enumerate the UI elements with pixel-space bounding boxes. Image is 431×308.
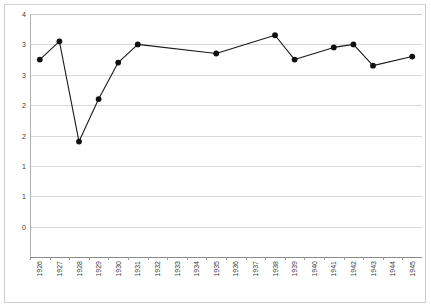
category-axis-tick xyxy=(324,257,325,260)
category-axis-tick xyxy=(265,257,266,260)
category-axis-tick-label: 1931 xyxy=(134,261,141,277)
category-axis-tick-label: 1938 xyxy=(272,261,279,277)
chart-root: 43322110 1926192719281929193019311932193… xyxy=(0,0,431,308)
category-axis-tick-label: 1943 xyxy=(370,261,377,277)
category-axis-tick xyxy=(167,257,168,260)
category-axis-tick xyxy=(246,257,247,260)
gridline xyxy=(30,136,422,137)
category-axis-tick-label: 1928 xyxy=(76,261,83,277)
gridline xyxy=(30,44,422,45)
category-axis-tick xyxy=(128,257,129,260)
category-axis-tick xyxy=(402,257,403,260)
category-axis-tick xyxy=(344,257,345,260)
category-axis-tick xyxy=(69,257,70,260)
category-axis-tick xyxy=(285,257,286,260)
category-axis-tick-label: 1940 xyxy=(311,261,318,277)
gridline xyxy=(30,14,422,15)
category-axis-tick-label: 1937 xyxy=(252,261,259,277)
category-axis-tick xyxy=(148,257,149,260)
category-axis-tick xyxy=(226,257,227,260)
gridline xyxy=(30,166,422,167)
value-axis-tick-label: 3 xyxy=(22,41,26,48)
value-axis-labels: 43322110 xyxy=(0,0,30,308)
category-axis-tick-label: 1942 xyxy=(350,261,357,277)
gridline xyxy=(30,75,422,76)
value-axis-tick-label: 2 xyxy=(22,102,26,109)
category-axis-tick xyxy=(187,257,188,260)
value-axis-tick-label: 4 xyxy=(22,11,26,18)
category-axis-tick-label: 1934 xyxy=(193,261,200,277)
value-axis-tick-label: 3 xyxy=(22,71,26,78)
category-axis-tick-label: 1935 xyxy=(213,261,220,277)
category-axis-labels: 1926192719281929193019311932193319341935… xyxy=(30,259,422,307)
category-axis-tick-label: 1939 xyxy=(291,261,298,277)
category-axis-tick xyxy=(363,257,364,260)
value-axis-tick-label: 1 xyxy=(22,193,26,200)
category-axis-tick-label: 1926 xyxy=(36,261,43,277)
category-axis-tick xyxy=(50,257,51,260)
value-axis-line xyxy=(30,14,31,258)
gridline xyxy=(30,105,422,106)
category-axis-tick-label: 1944 xyxy=(389,261,396,277)
category-axis-tick-label: 1932 xyxy=(154,261,161,277)
plot-area xyxy=(30,14,422,257)
category-axis-tick-label: 1936 xyxy=(232,261,239,277)
category-axis-tick xyxy=(304,257,305,260)
value-axis-tick-label: 2 xyxy=(22,132,26,139)
category-axis-tick xyxy=(383,257,384,260)
category-axis-tick-label: 1927 xyxy=(56,261,63,277)
category-axis-tick-label: 1929 xyxy=(95,261,102,277)
category-axis-tick xyxy=(89,257,90,260)
category-axis-tick xyxy=(30,257,31,260)
category-axis-tick-label: 1941 xyxy=(330,261,337,277)
category-axis-tick xyxy=(206,257,207,260)
category-axis-tick xyxy=(108,257,109,260)
gridline xyxy=(30,227,422,228)
gridline xyxy=(30,196,422,197)
category-axis-tick-label: 1945 xyxy=(409,261,416,277)
value-axis-tick-label: 1 xyxy=(22,162,26,169)
category-axis-tick-label: 1933 xyxy=(174,261,181,277)
category-axis-tick-label: 1930 xyxy=(115,261,122,277)
value-axis-tick-label: 0 xyxy=(22,223,26,230)
